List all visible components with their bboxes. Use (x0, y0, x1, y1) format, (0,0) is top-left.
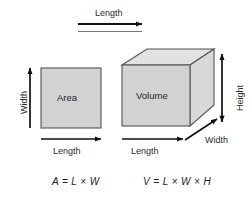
area-square-group (30, 68, 101, 139)
diagram-graphics (0, 0, 252, 204)
area-width-label: Width (20, 91, 29, 114)
top-length-label: Length (95, 9, 123, 18)
volume-formula: V = L × W × H (143, 177, 211, 187)
box-length-label: Length (131, 147, 159, 156)
area-face-label: Area (57, 93, 77, 103)
area-length-label: Length (53, 147, 81, 156)
area-formula: A = L × W (52, 177, 100, 187)
box-width-label: Width (205, 136, 228, 145)
diagram-canvas: Length Area Width Length Volume Height W… (0, 0, 252, 204)
top-length-measure (78, 24, 142, 32)
box-height-label: Height (236, 85, 245, 111)
volume-face-label: Volume (136, 91, 168, 101)
